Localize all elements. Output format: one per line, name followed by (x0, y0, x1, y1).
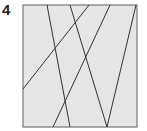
line-diagram (0, 0, 147, 131)
square-frame (23, 5, 137, 127)
